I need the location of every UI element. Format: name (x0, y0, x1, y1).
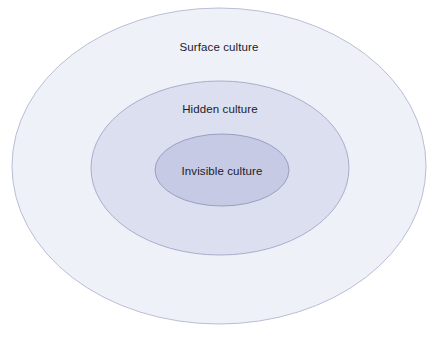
culture-layers-diagram: Surface culture Hidden culture Invisible… (0, 0, 438, 337)
invisible-culture-ellipse (155, 134, 289, 206)
concentric-ellipses-graphic (0, 0, 438, 337)
